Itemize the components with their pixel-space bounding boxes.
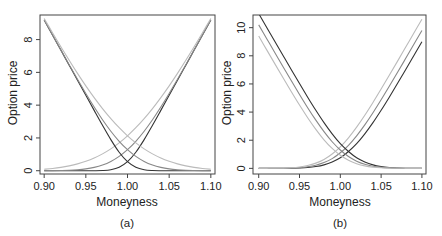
series-line-put-high-vol [44, 18, 211, 169]
x-axis-label: Moneyness [309, 195, 370, 209]
y-tick-label: 6 [22, 69, 34, 75]
y-tick-label: 2 [22, 135, 34, 141]
y-axis-label: Option price [6, 60, 20, 125]
x-tick-label: 0.95 [75, 180, 96, 192]
panel-label: (a) [120, 217, 134, 229]
panel-a: Option price Moneyness (a) 0.900.951.001… [6, 15, 222, 229]
figure: Option price Moneyness (a) 0.900.951.001… [0, 0, 442, 236]
x-tick-label: 1.10 [411, 180, 432, 192]
series-line-put-dark [259, 14, 422, 169]
x-tick-label: 0.90 [248, 180, 269, 192]
series-line-put-mid-vol [44, 20, 211, 171]
y-axis-label: Option price [220, 60, 234, 125]
plot-frame [253, 15, 426, 174]
y-tick-label: 6 [235, 81, 247, 87]
series-group [259, 14, 422, 169]
y-tick-label: 8 [22, 37, 34, 43]
series-line-put-low-vol [44, 20, 211, 171]
series-line-call-mid-vol [44, 20, 211, 171]
y-tick-label: 10 [235, 22, 247, 34]
x-tick-label: 0.90 [33, 180, 54, 192]
y-tick-label: 0 [22, 168, 34, 174]
x-tick-label: 1.10 [200, 180, 221, 192]
series-line-call-high-vol [44, 18, 211, 169]
series-group [44, 18, 211, 170]
x-axis-label: Moneyness [96, 195, 157, 209]
x-tick-label: 1.05 [158, 180, 179, 192]
y-tick-label: 4 [22, 102, 34, 108]
y-tick-label: 8 [235, 53, 247, 59]
series-line-call-light [259, 19, 422, 168]
x-tick-label: 0.95 [289, 180, 310, 192]
y-tick-label: 0 [235, 165, 247, 171]
series-line-call-mid [259, 30, 422, 168]
panel-label: (b) [333, 217, 347, 229]
x-tick-label: 1.00 [330, 180, 351, 192]
panel-b: Option price Moneyness (b) 0.900.951.001… [220, 14, 433, 229]
x-tick-label: 1.05 [370, 180, 391, 192]
y-tick-label: 2 [235, 137, 247, 143]
x-tick-label: 1.00 [117, 180, 138, 192]
series-line-call-low-vol [44, 20, 211, 171]
y-tick-label: 4 [235, 109, 247, 115]
